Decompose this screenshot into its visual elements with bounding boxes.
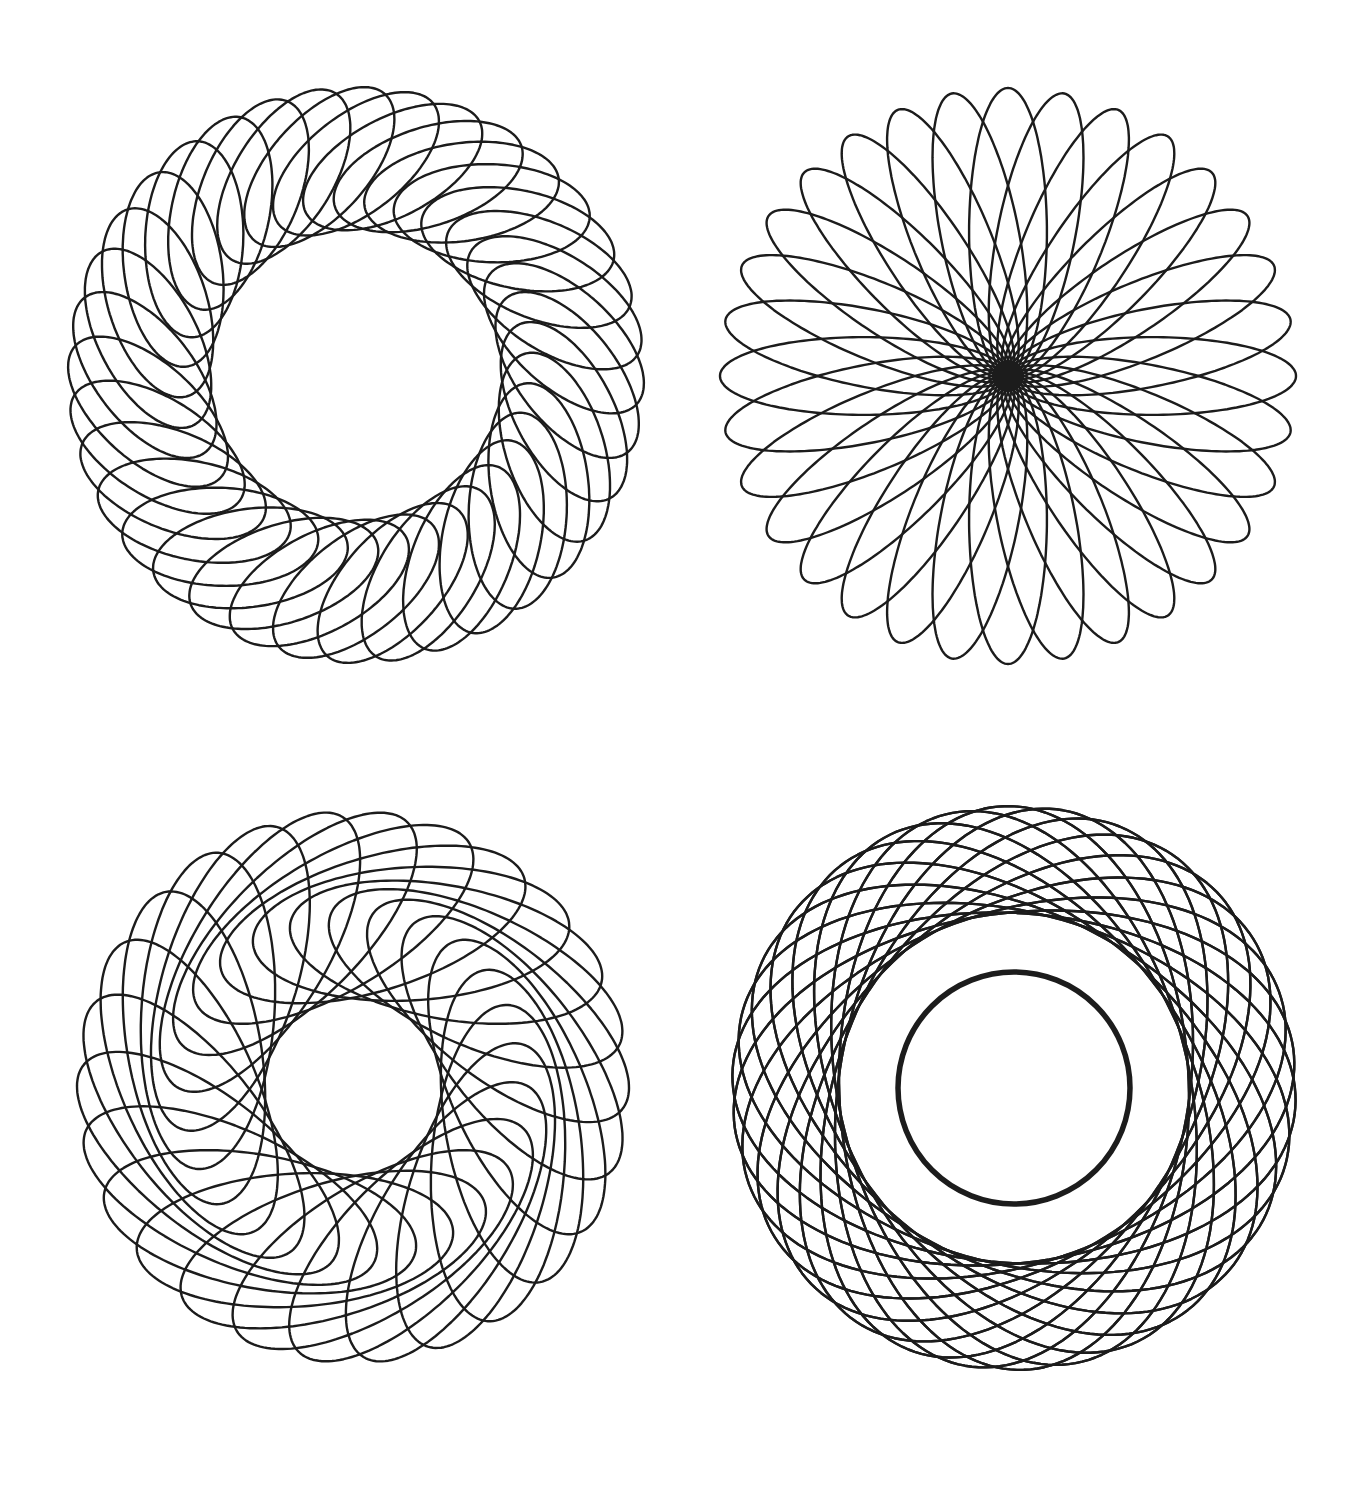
spirograph-canvas — [0, 0, 1360, 1501]
dense-center — [992, 360, 1024, 392]
